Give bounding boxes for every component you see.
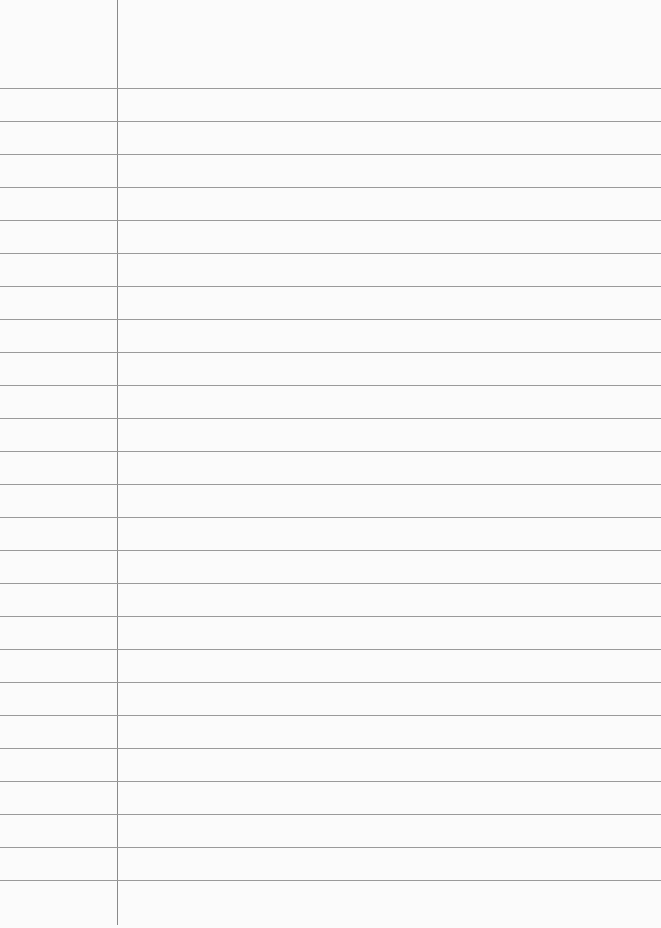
ruled-line (0, 781, 661, 782)
ruled-line (0, 121, 661, 122)
ruled-line (0, 253, 661, 254)
ruled-line (0, 880, 661, 881)
ruled-line (0, 220, 661, 221)
ruled-line (0, 517, 661, 518)
ruled-line (0, 814, 661, 815)
ruled-line (0, 748, 661, 749)
ruled-line (0, 847, 661, 848)
ruled-line (0, 385, 661, 386)
ruled-line (0, 649, 661, 650)
ruled-line (0, 550, 661, 551)
ruled-line (0, 418, 661, 419)
ruled-line (0, 682, 661, 683)
ruled-line (0, 583, 661, 584)
ruled-line (0, 319, 661, 320)
ruled-line (0, 88, 661, 89)
ruled-line (0, 286, 661, 287)
ruled-line (0, 715, 661, 716)
ruled-line (0, 616, 661, 617)
ruled-line (0, 187, 661, 188)
margin-line (117, 0, 118, 925)
ruled-line (0, 154, 661, 155)
ruled-line (0, 484, 661, 485)
ruled-line (0, 352, 661, 353)
ruled-line (0, 451, 661, 452)
